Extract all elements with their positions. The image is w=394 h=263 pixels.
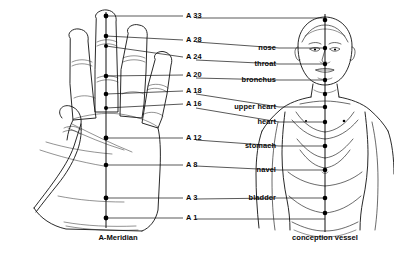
meridian-label-a33: A 33 <box>186 12 202 19</box>
body-label-stomach: stomach <box>245 142 276 149</box>
body-label-heart: heart <box>257 118 276 125</box>
meridian-label-a20: A 20 <box>186 71 202 78</box>
body-label-navel: navel <box>257 166 276 173</box>
meridian-label-a28: A 28 <box>186 36 202 43</box>
caption-a-meridian: A-Meridian <box>98 234 137 242</box>
hand-leaders <box>106 16 183 218</box>
caption-conception-vessel: conception vessel <box>292 234 358 242</box>
body-label-upper-heart: upper heart <box>234 103 276 110</box>
meridian-label-a24: A 24 <box>186 53 202 60</box>
meridian-label-a16: A 16 <box>186 100 202 107</box>
body-label-bladder: bladder <box>249 194 276 201</box>
body-label-bronchus: bronchus <box>242 76 276 83</box>
body-label-throat: throat <box>254 60 276 67</box>
meridian-label-a3: A 3 <box>186 194 198 201</box>
meridian-label-a1: A 1 <box>186 214 198 221</box>
meridian-label-a8: A 8 <box>186 161 198 168</box>
body-label-nose: nose <box>258 44 276 51</box>
meridian-label-a18: A 18 <box>186 87 202 94</box>
figure-root: A 33 A 28 A 24 A 20 A 18 A 16 A 12 A 8 A… <box>0 0 394 263</box>
meridian-label-a12: A 12 <box>186 134 202 141</box>
